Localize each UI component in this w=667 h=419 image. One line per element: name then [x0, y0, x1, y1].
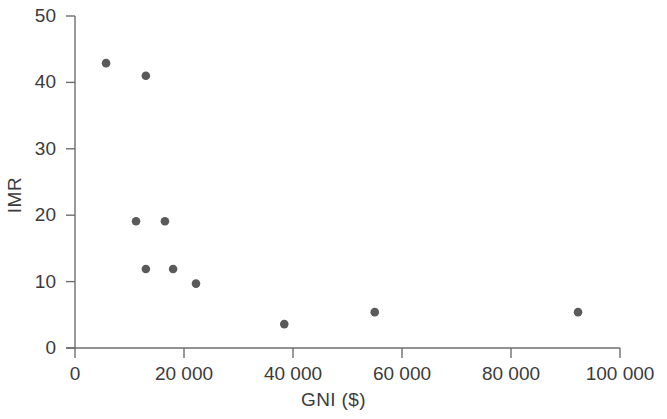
- data-point: [574, 308, 583, 317]
- scatter-chart-figure: IMR 01020304050 020 00040 00060 00080 00…: [0, 0, 667, 419]
- data-point: [280, 320, 289, 329]
- x-axis-tick-label: 100 000: [550, 364, 667, 383]
- data-point: [132, 217, 141, 226]
- data-point: [102, 59, 111, 68]
- y-axis-tick-label: 40: [12, 72, 56, 91]
- x-axis-ticks: [75, 348, 620, 358]
- y-axis-tick-label: 50: [12, 6, 56, 25]
- axis-lines: [66, 16, 620, 348]
- data-point-group: [102, 59, 583, 329]
- y-axis-tick-label: 20: [12, 205, 56, 224]
- plot-area: [0, 0, 667, 419]
- data-point: [169, 265, 178, 274]
- x-axis-title-text: GNI ($): [301, 389, 366, 410]
- x-axis-title: GNI ($): [0, 389, 667, 411]
- y-axis-ticks: [66, 16, 75, 348]
- data-point: [142, 265, 151, 274]
- y-axis-tick-label: 30: [12, 139, 56, 158]
- y-axis-tick-label: 0: [12, 338, 56, 357]
- data-point: [192, 279, 201, 288]
- y-axis-tick-label: 10: [12, 272, 56, 291]
- data-point: [370, 308, 379, 317]
- data-point: [142, 71, 151, 80]
- data-point: [161, 217, 170, 226]
